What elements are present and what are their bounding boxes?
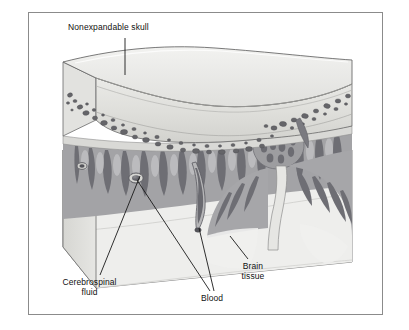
label-brain-tissue: Brain tissue <box>232 261 274 281</box>
label-blood: Blood <box>191 293 233 303</box>
vessel-left-small <box>77 163 87 170</box>
vessel-mid-large <box>129 173 143 183</box>
illustration-content <box>63 38 352 291</box>
label-nonexpandable-skull: Nonexpandable skull <box>68 22 149 32</box>
figure-root: Nonexpandable skull Cerebrospinal fluid … <box>0 0 409 330</box>
label-cerebrospinal-fluid: Cerebrospinal fluid <box>47 277 132 297</box>
